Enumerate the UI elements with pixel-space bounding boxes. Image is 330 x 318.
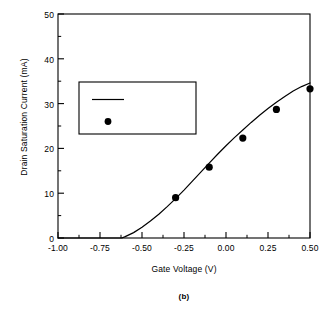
measured-data-point <box>306 85 313 92</box>
plot-area <box>0 0 330 318</box>
measured-data-point <box>273 106 280 113</box>
figure-panel-b: Drain Saturation Current (mA) 50 40 30 2… <box>0 0 330 318</box>
legend-marker-sample <box>105 118 112 125</box>
measured-data-point <box>172 194 179 201</box>
measured-data-point <box>239 135 246 142</box>
legend-box <box>79 82 196 134</box>
measured-data-point <box>206 164 213 171</box>
